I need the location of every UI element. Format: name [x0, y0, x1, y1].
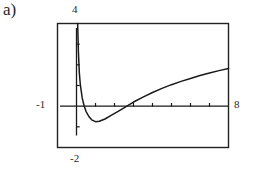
data-series-group — [78, 24, 229, 122]
series-path-0 — [78, 24, 229, 122]
figure-container: a) 4 -2 -1 8 — [0, 0, 253, 171]
plot-frame — [58, 24, 229, 148]
plot-area — [0, 0, 253, 171]
